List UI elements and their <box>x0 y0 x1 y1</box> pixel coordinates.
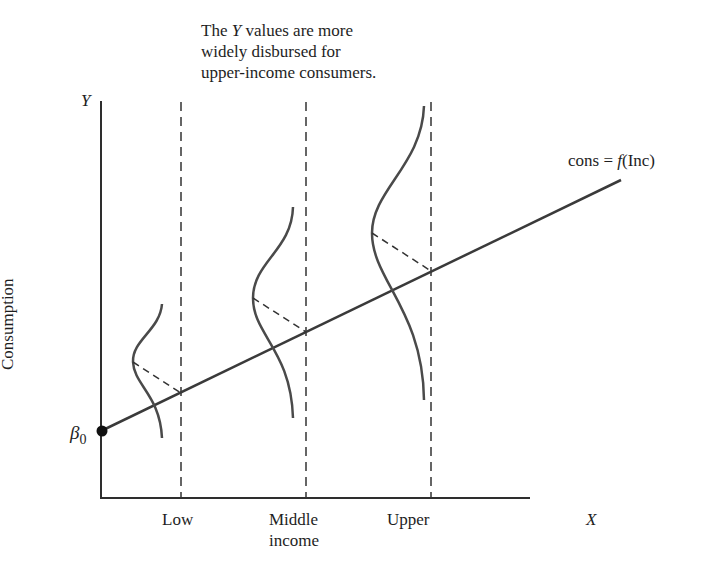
intercept-label: β0 <box>70 423 86 450</box>
beta-subscript: 0 <box>79 432 86 447</box>
y-axis-label: Y <box>81 91 90 111</box>
annotation-line1-prefix: The <box>201 21 232 40</box>
annotation-line2: widely disbursed for <box>201 42 341 61</box>
function-label-prefix: cons = <box>568 151 617 170</box>
upper-distribution-curve <box>372 106 424 400</box>
regression-line <box>101 180 621 431</box>
category-low: Low <box>162 510 193 530</box>
low-mean-dash <box>133 362 181 393</box>
annotation-y-variable: Y <box>232 21 241 40</box>
category-upper: Upper <box>387 510 429 530</box>
x-axis-label: X <box>586 510 596 530</box>
annotation-line3: upper-income consumers. <box>201 63 376 82</box>
category-middle-line2: income <box>269 531 319 551</box>
function-label-suffix: (Inc) <box>622 151 655 170</box>
heteroskedasticity-diagram <box>0 0 701 572</box>
annotation-line1-suffix: values are more <box>241 21 353 40</box>
middle-distribution-curve <box>253 207 293 418</box>
category-middle-line1: Middle <box>269 510 318 530</box>
function-label: cons = f(Inc) <box>568 151 655 171</box>
intercept-point <box>97 426 108 437</box>
annotation-text: The Y values are more widely disbursed f… <box>201 20 451 83</box>
y-axis-title: Consumption <box>0 278 18 370</box>
